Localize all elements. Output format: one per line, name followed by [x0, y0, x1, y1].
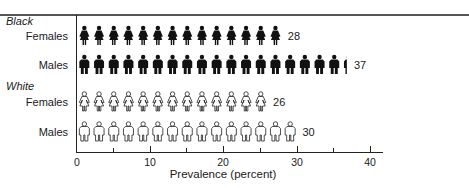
- female-figure-icon: [226, 92, 236, 111]
- female-figure-icon: [226, 26, 236, 45]
- male-figure-icon: [285, 55, 295, 74]
- male-figure-icon: [226, 122, 236, 141]
- female-figure-icon: [94, 26, 104, 45]
- female-figure-icon: [256, 26, 266, 45]
- tick-label-40: 40: [364, 156, 376, 168]
- female-figure-icon: [256, 92, 266, 111]
- value-label-black-males: 37: [354, 59, 366, 71]
- male-figure-icon: [123, 55, 133, 74]
- pictogram-bars: [0, 0, 469, 188]
- x-tick-15: [186, 148, 187, 152]
- female-figure-icon: [123, 26, 133, 45]
- tick-label-30: 30: [291, 156, 303, 168]
- male-figure-icon: [256, 122, 266, 141]
- value-label-black-females: 28: [288, 30, 300, 42]
- male-figure-icon: [123, 122, 133, 141]
- female-figure-icon: [138, 26, 148, 45]
- male-figure-icon: [212, 122, 222, 141]
- male-figure-icon: [168, 55, 178, 74]
- female-figure-icon: [241, 92, 251, 111]
- male-figure-icon: [329, 55, 339, 74]
- female-figure-icon: [94, 92, 104, 111]
- female-figure-icon: [197, 92, 207, 111]
- male-figure-icon: [344, 55, 354, 74]
- tick-label-10: 10: [144, 156, 156, 168]
- value-label-white-females: 26: [273, 96, 285, 108]
- female-figure-icon: [109, 26, 119, 45]
- male-figure-icon: [241, 55, 251, 74]
- male-figure-icon: [300, 55, 310, 74]
- male-figure-icon: [182, 122, 192, 141]
- male-figure-icon: [138, 122, 148, 141]
- female-figure-icon: [153, 26, 163, 45]
- male-figure-icon: [270, 55, 280, 74]
- female-figure-icon: [153, 92, 163, 111]
- female-figure-icon: [197, 26, 207, 45]
- female-figure-icon: [123, 92, 133, 111]
- x-tick-30: [297, 146, 298, 152]
- male-figure-icon: [153, 55, 163, 74]
- male-figure-icon: [94, 55, 104, 74]
- x-tick-20: [223, 146, 224, 152]
- female-figure-icon: [79, 26, 89, 45]
- male-figure-icon: [138, 55, 148, 74]
- male-figure-icon: [197, 55, 207, 74]
- male-figure-icon: [168, 122, 178, 141]
- tick-label-20: 20: [217, 156, 229, 168]
- male-figure-icon: [226, 55, 236, 74]
- male-figure-icon: [79, 122, 89, 141]
- male-figure-icon: [270, 122, 280, 141]
- female-figure-icon: [212, 92, 222, 111]
- male-figure-icon: [285, 122, 295, 141]
- male-figure-icon: [197, 122, 207, 141]
- female-figure-icon: [241, 26, 251, 45]
- x-tick-5: [113, 148, 114, 152]
- female-figure-icon: [168, 92, 178, 111]
- male-figure-icon: [182, 55, 192, 74]
- male-figure-icon: [79, 55, 89, 74]
- female-figure-icon: [168, 26, 178, 45]
- x-axis-title: Prevalence (percent): [170, 168, 277, 180]
- female-figure-icon: [270, 26, 280, 45]
- female-figure-icon: [212, 26, 222, 45]
- x-tick-35: [333, 148, 334, 152]
- male-figure-icon: [109, 55, 119, 74]
- female-figure-icon: [109, 92, 119, 111]
- male-figure-icon: [153, 122, 163, 141]
- x-tick-10: [150, 146, 151, 152]
- male-figure-icon: [94, 122, 104, 141]
- value-label-white-males: 30: [303, 126, 315, 138]
- male-figure-icon: [212, 55, 222, 74]
- female-figure-icon: [138, 92, 148, 111]
- female-figure-icon: [182, 92, 192, 111]
- female-figure-icon: [79, 92, 89, 111]
- x-tick-40: [370, 146, 371, 152]
- x-tick-0: [76, 146, 77, 152]
- tick-label-0: 0: [74, 156, 80, 168]
- male-figure-icon: [256, 55, 266, 74]
- female-figure-icon: [182, 26, 192, 45]
- male-figure-icon: [241, 122, 251, 141]
- male-figure-icon: [109, 122, 119, 141]
- male-figure-icon: [315, 55, 325, 74]
- x-tick-25: [260, 148, 261, 152]
